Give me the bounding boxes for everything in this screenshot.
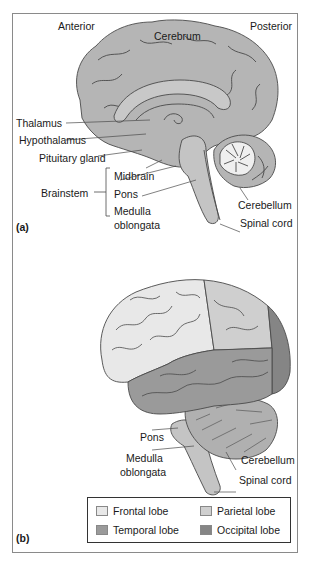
posterior-label: Posterior (250, 20, 292, 32)
spinal-cord-label-b: Spinal cord (239, 474, 292, 486)
legend-item-temporal: Temporal lobe (96, 524, 179, 536)
thalamus-label: Thalamus (16, 117, 62, 129)
legend-item-frontal: Frontal lobe (96, 505, 168, 517)
panel-b-tag: (b) (16, 532, 29, 544)
hypothalamus-label: Hypothalamus (19, 134, 86, 146)
anterior-label: Anterior (58, 20, 95, 32)
legend-label: Temporal lobe (113, 524, 179, 536)
medulla-label-b-line2: oblongata (120, 466, 166, 478)
arbor-vitae (220, 142, 255, 175)
medulla-label-line2: oblongata (114, 219, 160, 231)
brainstem-label: Brainstem (41, 187, 88, 199)
legend-label: Parietal lobe (217, 505, 275, 517)
brainstem (179, 136, 218, 224)
cerebellum-label: Cerebellum (238, 199, 292, 211)
medulla-label-line1: Medulla (114, 205, 151, 217)
pituitary-gland-label: Pituitary gland (39, 152, 106, 164)
spinal-cord-label: Spinal cord (240, 217, 293, 229)
parietal-lobe (204, 280, 272, 350)
legend-item-occipital: Occipital lobe (200, 524, 280, 536)
legend-label: Occipital lobe (217, 524, 280, 536)
parietal-swatch (200, 506, 212, 516)
medulla-label-b-line1: Medulla (126, 452, 163, 464)
frontal-swatch (96, 506, 108, 516)
temporal-swatch (96, 525, 108, 535)
occipital-swatch (200, 525, 212, 535)
pons-label: Pons (114, 188, 138, 200)
cerebellum-label-b: Cerebellum (241, 454, 295, 466)
midbrain-label: Midbrain (114, 170, 154, 182)
legend-item-parietal: Parietal lobe (200, 505, 275, 517)
legend-label: Frontal lobe (113, 505, 168, 517)
lobe-legend: Frontal lobe Parietal lobe Temporal lobe… (87, 497, 291, 543)
pons-label-b: Pons (140, 431, 164, 443)
cerebrum-label: Cerebrum (154, 30, 201, 42)
panel-a-tag: (a) (16, 221, 29, 233)
